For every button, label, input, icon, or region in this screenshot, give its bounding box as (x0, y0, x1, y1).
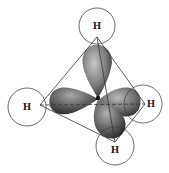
hydrogen-atom-left: H (8, 88, 46, 126)
carbon-nucleus (96, 96, 100, 100)
atom-label-h-right: H (147, 99, 156, 109)
atom-label-h-top: H (93, 21, 102, 31)
orbital-lobe-left (49, 88, 98, 115)
atom-label-h-left: H (23, 102, 32, 112)
orbital-lobes (49, 45, 140, 139)
methane-orbital-diagram: H H H H (0, 0, 169, 173)
atom-label-h-bottom: H (111, 145, 120, 155)
orbital-lobe-top (82, 45, 112, 98)
